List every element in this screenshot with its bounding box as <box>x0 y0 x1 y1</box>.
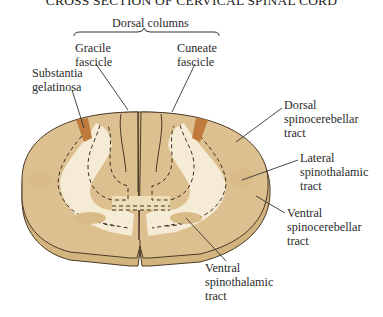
lateral-spinothalamic-label: Lateral spinothalamic tract <box>300 151 368 193</box>
dorsal-spinocerebellar-label: Dorsal spinocerebellar tract <box>284 98 358 140</box>
white-matter <box>22 112 268 258</box>
dorsal-columns-label: Dorsal columns <box>112 16 189 30</box>
gracile-fascicle-label: Gracile fascicle <box>75 41 112 69</box>
lateral-spinothalamic-area-right <box>230 168 254 188</box>
ventral-spinocerebellar-label: Ventral spinocerebellar tract <box>287 206 361 248</box>
gray-commissure <box>112 196 170 210</box>
cuneate-fascicle-label: Cuneate fascicle <box>177 41 217 69</box>
ventral-spinothalamic-area-left <box>74 212 106 224</box>
substantia-gelatinosa-label: Substantia gelatinosa <box>32 66 83 94</box>
ventral-spinothalamic-label: Ventral spinothalamic tract <box>205 261 273 303</box>
lateral-spinothalamic-area-left <box>28 170 52 190</box>
